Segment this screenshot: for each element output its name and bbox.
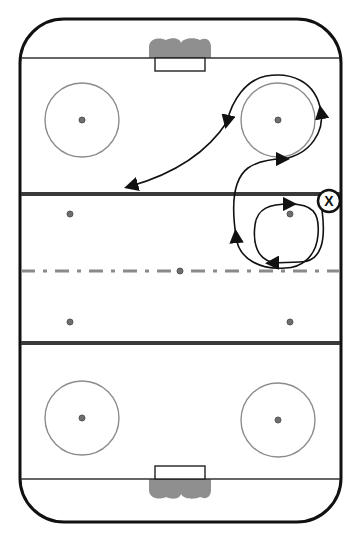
neutral-dot-lower-right (287, 319, 293, 325)
neutral-dot-upper-left (67, 211, 73, 217)
bottom-crease (155, 466, 205, 479)
player-label: X (324, 193, 334, 209)
rink-svg: X (0, 0, 362, 541)
top-goal-net (149, 38, 211, 58)
neutral-dot-lower-left (67, 319, 73, 325)
hockey-rink-diagram: X (0, 0, 362, 541)
player-x-marker: X (318, 190, 340, 212)
top-crease (155, 58, 205, 71)
center-ice-dot (177, 268, 183, 274)
neutral-dot-upper-right (287, 211, 293, 217)
bottom-goal-net (149, 479, 211, 499)
